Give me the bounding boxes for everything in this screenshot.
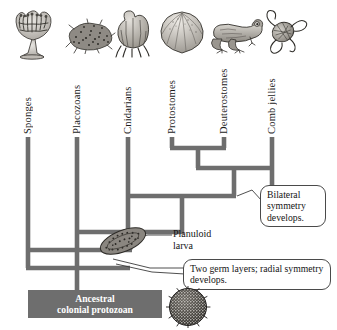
leader-bilateral — [237, 190, 262, 201]
figure-canvas: Sponges Placozoans Cnidarians Protostome… — [0, 0, 337, 330]
ancestor-line2: colonial protozoan — [57, 304, 133, 315]
ancestor-line1: Ancestral — [75, 293, 114, 304]
ancestor-box: Ancestral colonial protozoan — [28, 290, 162, 318]
label-planuloid-larva-line2: larva — [173, 240, 193, 252]
callout-bilateral-symmetry: Bilateral symmetry develops. — [260, 185, 326, 227]
colonial-protozoan-sphere — [166, 286, 212, 328]
planuloid-larva-illustration — [95, 222, 151, 260]
label-planuloid-larva-line1: Planuloid — [173, 228, 211, 240]
